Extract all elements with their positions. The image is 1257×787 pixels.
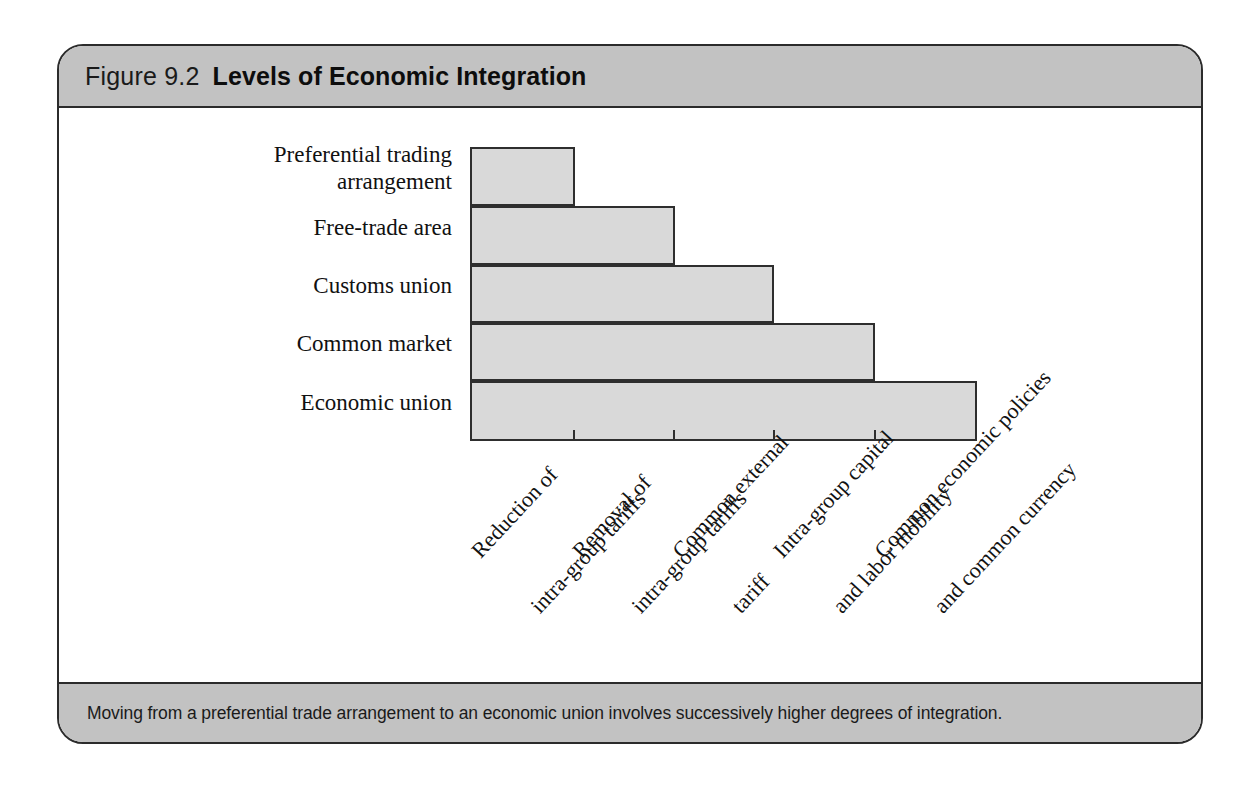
row-label-common-market: Common market: [112, 330, 452, 357]
bar-preferential-trading-arrangement: [470, 147, 575, 206]
figure-card: Figure 9.2 Levels of Economic Integratio…: [57, 44, 1203, 744]
row-label-preferential-trading-arrangement: Preferential trading arrangement: [112, 141, 452, 195]
row-label-line-1: Customs union: [112, 272, 452, 299]
figure-caption-band: Moving from a preferential trade arrange…: [59, 682, 1201, 742]
row-label-economic-union: Economic union: [112, 389, 452, 416]
row-label-line-1: Preferential trading: [112, 141, 452, 168]
row-label-line-1: Common market: [112, 330, 452, 357]
chart-plot-area: Preferential trading arrangement Free-tr…: [59, 108, 1201, 682]
row-label-customs-union: Customs union: [112, 272, 452, 299]
row-label-line-2: arrangement: [112, 168, 452, 195]
row-label-line-1: Economic union: [112, 389, 452, 416]
figure-caption-text: Moving from a preferential trade arrange…: [87, 703, 1002, 724]
figure-number: Figure 9.2: [85, 62, 200, 91]
figure-header: Figure 9.2 Levels of Economic Integratio…: [59, 46, 1201, 108]
row-label-free-trade-area: Free-trade area: [112, 214, 452, 241]
bar-customs-union: [470, 265, 774, 323]
figure-title: Levels of Economic Integration: [213, 62, 587, 91]
row-label-line-1: Free-trade area: [112, 214, 452, 241]
bar-common-market: [470, 323, 875, 381]
bar-free-trade-area: [470, 206, 675, 265]
